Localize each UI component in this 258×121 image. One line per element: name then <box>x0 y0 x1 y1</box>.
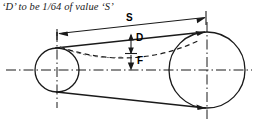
belt-tension-diagram: ‘D’ to be 1/64 of value ‘S’ <box>0 0 258 121</box>
deflection-dimension-label: D <box>136 33 143 43</box>
span-dimension-label: S <box>126 13 133 23</box>
force-dimension-label: F <box>137 56 143 66</box>
deflection-up-arrowhead-icon <box>128 34 134 41</box>
span-left-arrowhead-icon <box>58 31 68 36</box>
force-arrowhead-icon <box>128 63 134 71</box>
